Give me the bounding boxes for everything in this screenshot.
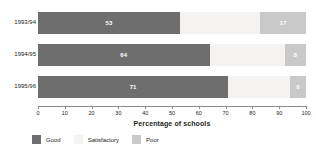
bar-segment-poor-1995-96: 6 — [290, 76, 306, 98]
x-axis-tick-label: 30 — [115, 111, 121, 117]
x-axis-tick — [252, 106, 253, 109]
bar-value-good-1995-96: 71 — [130, 84, 137, 90]
chart-legend: Good Satisfactory Poor — [32, 135, 172, 144]
bar-row-1995-96: 71 6 — [38, 76, 306, 98]
legend-swatch-satisfactory-icon — [74, 135, 83, 144]
x-axis-tick — [118, 106, 119, 109]
plot-area: 53 17 64 8 71 6 — [38, 10, 306, 104]
x-axis-tick — [199, 106, 200, 109]
x-axis-tick — [306, 106, 307, 109]
legend-label-satisfactory: Satisfactory — [88, 137, 119, 143]
y-axis-label-1993-94: 1993/94 — [0, 19, 36, 25]
bar-segment-poor-1993-94: 17 — [260, 12, 306, 34]
bar-value-poor-1995-96: 6 — [296, 84, 299, 90]
bar-segment-satisfactory-1994-95 — [210, 44, 285, 66]
x-axis-tick — [226, 106, 227, 109]
x-axis-tick — [172, 106, 173, 109]
x-axis-tick-label: 90 — [276, 111, 282, 117]
legend-label-good: Good — [46, 137, 61, 143]
legend-item-poor: Poor — [132, 135, 159, 144]
bar-value-good-1993-94: 53 — [106, 20, 113, 26]
x-axis-tick — [92, 106, 93, 109]
bar-row-1994-95: 64 8 — [38, 44, 306, 66]
x-axis-tick-label: 10 — [62, 111, 68, 117]
x-axis-tick — [279, 106, 280, 109]
x-axis-tick-label: 70 — [223, 111, 229, 117]
y-axis-label-1994-95: 1994/95 — [0, 51, 36, 57]
bar-segment-good-1994-95: 64 — [38, 44, 210, 66]
x-axis-tick — [38, 106, 39, 109]
legend-swatch-good-icon — [32, 135, 41, 144]
x-axis-tick-label: 0 — [36, 111, 39, 117]
x-axis-tick — [65, 106, 66, 109]
x-axis-tick-label: 40 — [142, 111, 148, 117]
bar-segment-good-1993-94: 53 — [38, 12, 180, 34]
stacked-bar-chart: 1993/94 1994/95 1995/96 53 17 64 8 71 — [0, 0, 316, 152]
x-axis-tick — [145, 106, 146, 109]
bar-segment-poor-1994-95: 8 — [285, 44, 306, 66]
bar-value-good-1994-95: 64 — [120, 52, 127, 58]
x-axis-tick-label: 60 — [196, 111, 202, 117]
bar-segment-good-1995-96: 71 — [38, 76, 228, 98]
x-axis-tick-label: 100 — [301, 111, 310, 117]
legend-label-poor: Poor — [146, 137, 159, 143]
x-axis-tick-label: 80 — [249, 111, 255, 117]
bar-segment-satisfactory-1993-94 — [180, 12, 260, 34]
legend-item-good: Good — [32, 135, 61, 144]
bar-value-poor-1993-94: 17 — [280, 20, 287, 26]
x-axis-title: Percentage of schools — [38, 120, 306, 127]
x-axis-tick-label: 50 — [169, 111, 175, 117]
x-axis-tick-label: 20 — [89, 111, 95, 117]
bar-segment-satisfactory-1995-96 — [228, 76, 290, 98]
y-axis-label-1995-96: 1995/96 — [0, 83, 36, 89]
bar-row-1993-94: 53 17 — [38, 12, 306, 34]
legend-item-satisfactory: Satisfactory — [74, 135, 119, 144]
bar-value-poor-1994-95: 8 — [294, 52, 297, 58]
legend-swatch-poor-icon — [132, 135, 141, 144]
